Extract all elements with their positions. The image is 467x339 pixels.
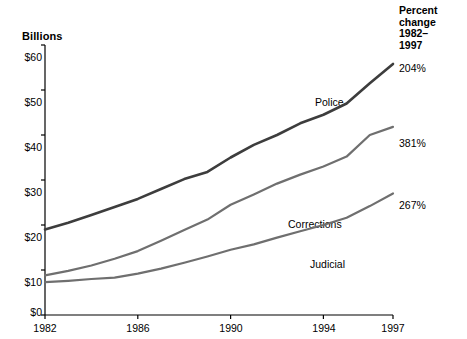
axis-lines [45,45,393,315]
expenditure-line-chart: Billions Percent change 1982– 1997 $60 $… [0,0,467,339]
data-series-lines [45,64,393,282]
plot-area [0,0,467,339]
series-line-police [45,64,393,230]
series-line-judicial [45,194,393,283]
